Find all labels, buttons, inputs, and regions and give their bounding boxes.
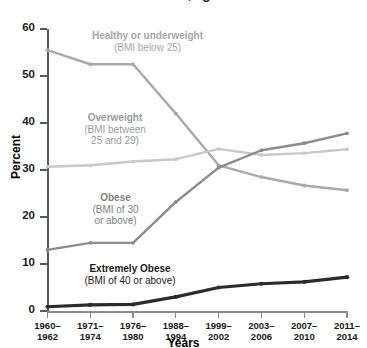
data-point-overweight-7 (345, 147, 349, 151)
data-point-healthy-or-underweight-1 (88, 62, 92, 66)
data-point-obese-0 (46, 248, 50, 252)
data-point-overweight-2 (131, 160, 135, 164)
series-label-overweight: Overweight (BMI between 25 and 29) (55, 112, 175, 147)
data-point-extremely-obese-7 (345, 275, 349, 279)
data-point-obese-3 (174, 200, 178, 204)
data-point-extremely-obese-4 (217, 285, 221, 289)
data-point-healthy-or-underweight-2 (131, 62, 135, 66)
data-point-obese-1 (88, 241, 92, 245)
series-label-healthy-title: Healthy or underweight (60, 30, 235, 42)
data-point-healthy-or-underweight-0 (46, 48, 50, 52)
data-point-overweight-5 (260, 153, 264, 157)
series-label-overweight-sub2: 25 and 29) (55, 135, 175, 147)
series-label-extremely-obese-sub: (BMI of 40 or above) (50, 275, 210, 287)
series-label-healthy-sub: (BMI below 25) (60, 42, 235, 54)
series-label-obese-title: Obese (58, 192, 173, 204)
data-point-healthy-or-underweight-6 (302, 184, 306, 188)
data-point-healthy-or-underweight-5 (260, 175, 264, 179)
series-line-overweight (48, 149, 348, 167)
series-label-extremely-obese: Extremely Obese (BMI of 40 or above) (50, 263, 210, 286)
series-label-obese-sub1: (BMI of 30 (58, 204, 173, 216)
series-label-healthy: Healthy or underweight (BMI below 25) (60, 30, 235, 53)
data-point-overweight-4 (217, 147, 221, 151)
data-point-obese-7 (345, 131, 349, 135)
data-point-obese-5 (260, 148, 264, 152)
data-point-overweight-6 (302, 151, 306, 155)
data-point-healthy-or-underweight-7 (345, 188, 349, 192)
data-point-obese-2 (131, 241, 135, 245)
data-point-extremely-obese-3 (174, 295, 178, 299)
data-point-extremely-obese-1 (88, 303, 92, 307)
data-point-obese-4 (217, 166, 221, 170)
series-label-obese: Obese (BMI of 30 or above) (58, 192, 173, 227)
data-point-overweight-1 (88, 163, 92, 167)
series-label-obese-sub2: or above) (58, 215, 173, 227)
data-point-obese-6 (302, 141, 306, 145)
data-point-extremely-obese-0 (45, 305, 49, 309)
data-point-extremely-obese-6 (302, 280, 306, 284)
series-label-overweight-sub1: (BMI between (55, 124, 175, 136)
chart-container: in the United States, aged 20 and over 6… (0, 0, 367, 348)
series-label-extremely-obese-title: Extremely Obese (50, 263, 210, 275)
data-point-overweight-3 (174, 157, 178, 161)
data-point-extremely-obese-5 (259, 282, 263, 286)
data-point-overweight-0 (46, 165, 50, 169)
data-point-extremely-obese-2 (131, 302, 135, 306)
series-label-overweight-title: Overweight (55, 112, 175, 124)
